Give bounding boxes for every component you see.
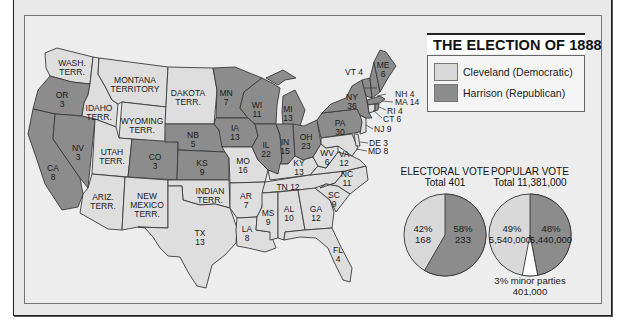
label-wash-terr: WASH.TERR. — [58, 58, 86, 77]
popular-vote-title: POPULAR VOTE Total 11,381,000 — [475, 166, 585, 188]
map-title: THE ELECTION OF 1888 — [427, 33, 585, 54]
electoral-cleveland-label: 42%168 — [413, 223, 433, 245]
label-ny: NY36 — [346, 92, 358, 111]
region-ri — [375, 104, 379, 111]
label-nc: NC11 — [341, 169, 353, 188]
popular-title-text: POPULAR VOTE — [475, 166, 585, 177]
leader-line-md — [356, 149, 367, 151]
region-ct — [368, 104, 375, 113]
label-ga: GA12 — [310, 204, 323, 223]
popular-total-text: Total 11,381,000 — [475, 177, 585, 188]
region-fl — [284, 228, 352, 282]
label-vt: VT 4 — [345, 67, 363, 77]
leader-line-ct — [373, 110, 382, 118]
label-al: AL10 — [284, 204, 295, 223]
leader-line-nj — [366, 125, 373, 129]
label-tn: TN 12 — [276, 182, 299, 192]
label-va: VA12 — [339, 149, 350, 168]
label-ia: IA13 — [230, 123, 240, 142]
legend-label-harrison: Harrison (Republican) — [463, 87, 565, 99]
label-indian-terr: INDIANTERR. — [196, 186, 225, 205]
label-idaho-terr: IDAHOTERR. — [86, 103, 113, 122]
electoral-harrison-label: 58%233 — [453, 223, 473, 245]
leader-line-de — [360, 142, 368, 143]
label-ariz-terr: ARIZ.TERR. — [90, 192, 116, 211]
label-ky: KY13 — [293, 158, 305, 177]
label-wi: WI11 — [252, 100, 262, 119]
label-nj: NJ 9 — [374, 124, 392, 134]
legend-item-harrison: Harrison (Republican) — [434, 82, 578, 103]
label-ct: CT 6 — [383, 114, 402, 124]
cleveland-swatch — [434, 63, 458, 81]
leader-line-nh — [377, 94, 386, 96]
legend-label-cleveland: Cleveland (Democratic) — [463, 66, 573, 78]
popular-minor-label: 3% minor parties401,000 — [494, 275, 566, 297]
label-in: IN15 — [280, 137, 290, 156]
label-il: IL22 — [261, 140, 271, 159]
label-pa: PA30 — [335, 118, 346, 137]
harrison-swatch — [434, 84, 458, 102]
label-oh: OH23 — [300, 132, 313, 151]
label-utah-terr: UTAHTERR. — [99, 147, 125, 166]
label-montana-terr: MONTANATERRITORY — [111, 75, 160, 94]
label-mi: MI13 — [283, 104, 293, 123]
leader-line-ri — [379, 107, 386, 110]
label-tx: TX13 — [195, 228, 206, 247]
legend-box: Cleveland (Democratic) Harrison (Republi… — [427, 55, 585, 112]
label-dakota-terr: DAKOTATERR. — [171, 88, 206, 107]
legend: THE ELECTION OF 1888 Cleveland (Democrat… — [427, 33, 585, 105]
legend-item-cleveland: Cleveland (Democratic) — [434, 61, 578, 82]
label-md: MD 8 — [368, 146, 389, 156]
leader-line-ma — [382, 101, 393, 102]
